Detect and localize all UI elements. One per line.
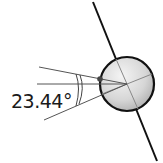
location-marker-dot (97, 76, 103, 82)
axial-tilt-diagram: 23.44° (0, 0, 163, 163)
angle-arc-inner (76, 74, 79, 106)
angle-arc-outer (79, 75, 82, 104)
diagram-svg: 23.44° (0, 0, 163, 163)
angle-label: 23.44° (11, 90, 72, 112)
